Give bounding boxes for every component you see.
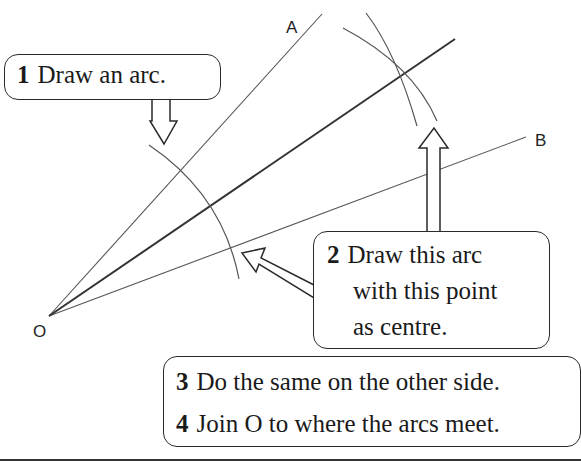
arc-from-ob bbox=[343, 28, 437, 121]
bottom-rule-divider bbox=[0, 459, 581, 461]
step-text-line-1: Draw this arc bbox=[348, 241, 483, 268]
arrow-up-icon bbox=[419, 128, 448, 232]
steps-3-4-callout: 3Do the same on the other side. 4Join O … bbox=[163, 356, 581, 447]
step-text: Do the same on the other side. bbox=[197, 368, 500, 395]
step-1-callout: 1Draw an arc. bbox=[4, 54, 221, 100]
step-number: 3 bbox=[176, 368, 189, 395]
label-a: A bbox=[286, 18, 298, 37]
step-text: Join O to where the arcs meet. bbox=[197, 410, 500, 437]
step-number: 4 bbox=[176, 410, 189, 437]
arrow-diagonal-icon bbox=[242, 248, 314, 298]
step-text: Draw an arc. bbox=[38, 61, 166, 88]
step-text-line-3: as centre. bbox=[327, 309, 549, 345]
step-2-callout: 2Draw this arc with this point as centre… bbox=[313, 231, 550, 349]
step-text-line-2: with this point bbox=[327, 273, 549, 309]
step-number: 2 bbox=[327, 241, 340, 268]
angle-bisection-diagram: O A B 1Draw an arc. 2Draw this arc with … bbox=[0, 0, 581, 470]
arrow-down-icon bbox=[150, 99, 177, 144]
step-number: 1 bbox=[17, 61, 30, 88]
label-o: O bbox=[33, 322, 46, 341]
label-b: B bbox=[535, 131, 546, 150]
arc-centre-o bbox=[149, 145, 239, 279]
